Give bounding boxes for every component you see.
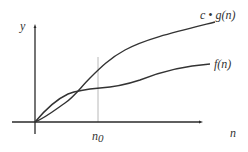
f-curve — [35, 64, 210, 122]
f-curve-label: f(n) — [214, 57, 231, 71]
cg-curve — [35, 22, 215, 122]
big-o-diagram: y n n0 c • g(n) f(n) — [0, 0, 248, 152]
y-axis-label: y — [19, 19, 26, 33]
x-axis-label: n — [230, 126, 236, 140]
x-axis-arrow-icon — [199, 121, 203, 124]
n0-label: n0 — [92, 129, 104, 144]
cg-curve-label: c • g(n) — [200, 8, 236, 22]
y-axis-arrow-icon — [34, 24, 37, 28]
n0-label-subscript: 0 — [98, 132, 104, 144]
